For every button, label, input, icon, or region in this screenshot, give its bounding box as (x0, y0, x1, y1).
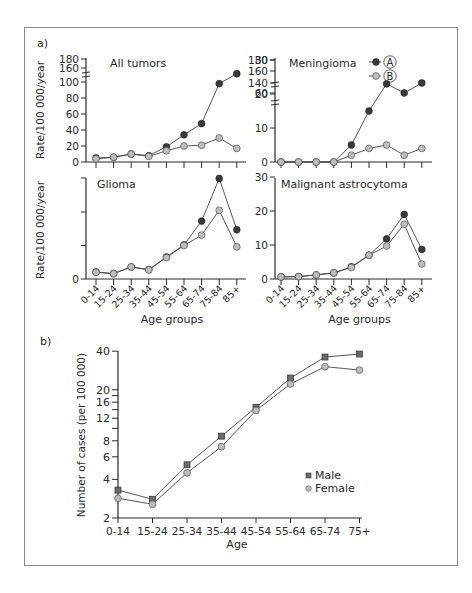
x-axis-label: Age groups (141, 313, 204, 326)
legend-marker (306, 473, 311, 478)
data-point (198, 142, 205, 149)
data-point (198, 120, 205, 127)
y-tick-label: 10 (255, 239, 268, 251)
y-tick-label: 0 (261, 273, 268, 285)
data-point (366, 145, 373, 152)
data-point (253, 407, 260, 414)
data-point (216, 207, 223, 214)
y-tick-label: 12 (96, 412, 110, 425)
x-tick-label: 75+ (348, 525, 370, 537)
x-tick-label: 25-34 (172, 525, 203, 537)
y-tick-label: 8 (103, 435, 110, 448)
data-point (163, 254, 170, 261)
data-point (287, 381, 294, 388)
data-point (110, 154, 117, 161)
data-point (401, 152, 408, 159)
data-point (383, 235, 390, 242)
y-tick-label: 100 (59, 76, 79, 88)
y-tick-label: 6 (103, 451, 110, 464)
chart-title: Glioma (97, 178, 136, 191)
data-point (181, 242, 188, 249)
chart-title: Meningioma (289, 57, 356, 70)
legend: AB (369, 56, 396, 82)
data-point (181, 143, 188, 150)
data-point (163, 147, 170, 154)
x-tick-label: 15-24 (137, 525, 168, 537)
y-tick-label: 180 (248, 54, 268, 66)
data-point (401, 211, 408, 218)
data-point (356, 367, 363, 374)
x-tick-label: 35-44 (206, 525, 237, 537)
y-axis-label: Rate/100 000/year (34, 180, 46, 279)
axis-break-mark (271, 100, 279, 101)
series-line-b (96, 210, 237, 273)
y-tick-label: 80 (66, 92, 79, 104)
x-tick-label: 55-64 (275, 525, 306, 537)
data-point (418, 246, 425, 253)
legend-label: B (387, 71, 394, 82)
data-point (149, 501, 156, 508)
y-axis-label: Number of cases (per 100 000) (75, 353, 87, 517)
x-tick-label: 85+ (220, 283, 242, 305)
figure: a) b) 020406080100160180Rate/100 000/yea… (0, 0, 472, 593)
data-point (418, 261, 425, 268)
y-tick-label: 0 (72, 156, 79, 168)
axis-break-mark (82, 72, 90, 73)
y-tick-label: 0 (72, 273, 79, 285)
data-point (348, 152, 355, 159)
x-axis-label: Age groups (328, 313, 391, 326)
data-point (233, 226, 240, 233)
data-point (145, 153, 152, 160)
data-point (184, 469, 191, 476)
data-point (373, 73, 380, 80)
x-tick-label: 45-54 (241, 525, 272, 537)
y-axis-label: Rate/100 000/year (34, 60, 46, 159)
chart-panel-glioma: 00-1415-2425-3435-4445-5455-6465-7475-84… (34, 175, 246, 326)
data-point (401, 221, 408, 228)
data-point (322, 363, 329, 370)
y-tick-label: 160 (248, 65, 268, 77)
data-point (93, 155, 100, 162)
chart-panel-malignant-astrocytoma: 01020300-1415-2425-3435-4445-5455-6465-7… (255, 171, 432, 326)
data-point (233, 145, 240, 152)
axis-break-mark (82, 76, 90, 77)
data-point (128, 264, 135, 271)
y-tick-label: 20 (255, 205, 268, 217)
y-tick-label: 60 (66, 108, 79, 120)
panel-b-label: b) (40, 335, 51, 348)
panel-a-label: a) (37, 37, 48, 50)
data-point (93, 269, 100, 276)
y-tick-label: 180 (59, 53, 79, 65)
data-point (110, 270, 117, 277)
legend-marker (306, 486, 312, 492)
data-point (198, 232, 205, 239)
data-point (184, 462, 190, 468)
data-point (233, 70, 240, 77)
data-point (348, 142, 355, 149)
axis-break-mark (271, 104, 279, 105)
y-tick-label: 20 (96, 384, 110, 397)
data-point (288, 375, 294, 381)
y-tick-label: 0 (261, 156, 268, 168)
y-tick-label: 40 (96, 345, 110, 358)
data-point (216, 135, 223, 142)
y-tick-label: 10 (255, 122, 268, 134)
y-tick-label: 140 (248, 77, 268, 89)
data-point (115, 487, 121, 493)
y-tick-label: 20 (66, 140, 79, 152)
x-tick-label: 0-14 (106, 525, 130, 537)
x-tick-label: 85+ (405, 283, 427, 305)
data-point (295, 159, 302, 166)
y-tick-label: 30 (255, 171, 268, 183)
chart-title: All tumors (110, 57, 166, 70)
data-point (181, 131, 188, 138)
x-tick-label: 65-74 (310, 525, 341, 537)
y-tick-label: 4 (103, 473, 110, 486)
data-point (145, 267, 152, 274)
data-point (330, 269, 337, 276)
y-tick-label: 40 (66, 124, 79, 136)
data-point (198, 218, 205, 225)
y-tick-label: 16 (96, 396, 110, 409)
chart-panel-cases-by-age: 2468121620400-1415-2425-3435-4445-5455-6… (75, 345, 371, 551)
legend-label: Female (315, 482, 355, 495)
